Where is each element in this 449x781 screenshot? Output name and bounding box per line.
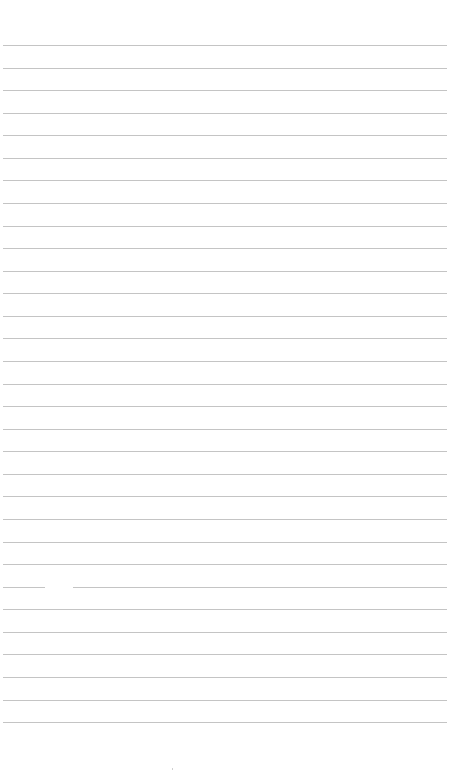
ruled-line <box>3 429 447 430</box>
ruled-line <box>3 338 447 339</box>
ruled-line <box>3 203 447 204</box>
ruled-line <box>3 722 447 723</box>
ruled-line <box>3 293 447 294</box>
ruled-line <box>3 564 447 565</box>
ruled-line <box>3 587 447 588</box>
ruled-line <box>3 113 447 114</box>
ruled-line <box>3 68 447 69</box>
ruled-line <box>3 316 447 317</box>
ruled-line <box>3 632 447 633</box>
ruled-line <box>3 135 447 136</box>
ruled-line <box>3 542 447 543</box>
ruled-line <box>3 271 447 272</box>
ruled-line <box>3 474 447 475</box>
lined-paper-sheet <box>0 0 449 781</box>
ruled-line <box>3 361 447 362</box>
ruled-line <box>3 90 447 91</box>
ruled-line <box>3 406 447 407</box>
ruled-line <box>3 226 447 227</box>
ruled-line <box>3 384 447 385</box>
ruled-line <box>3 654 447 655</box>
ruled-line <box>3 45 447 46</box>
ruled-line <box>3 609 447 610</box>
ruled-line <box>3 180 447 181</box>
ruled-line <box>3 700 447 701</box>
ruled-line <box>3 248 447 249</box>
paper-speck <box>172 768 173 770</box>
ruled-line <box>3 519 447 520</box>
ruled-line <box>3 158 447 159</box>
ruled-line <box>3 451 447 452</box>
ruled-line <box>3 677 447 678</box>
ruled-line <box>3 496 447 497</box>
